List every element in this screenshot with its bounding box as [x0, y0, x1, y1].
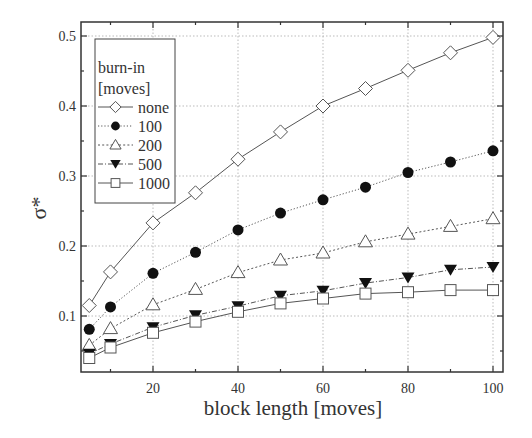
circle-marker — [148, 268, 159, 279]
diamond-marker — [359, 82, 373, 96]
y-tick-label: 0.4 — [59, 99, 77, 114]
circle-marker — [84, 324, 95, 335]
x-tick-label: 60 — [316, 381, 330, 396]
legend-label: 500 — [138, 156, 162, 173]
x-tick-label: 40 — [231, 381, 245, 396]
triangle-up-marker — [82, 338, 96, 350]
circle-marker — [403, 167, 414, 178]
circle-marker — [111, 122, 120, 131]
circle-marker — [488, 145, 499, 156]
square-marker — [318, 293, 329, 304]
circle-marker — [318, 194, 329, 205]
x-tick-label: 20 — [146, 381, 160, 396]
diamond-marker — [486, 30, 500, 44]
y-tick-label: 0.2 — [59, 239, 77, 254]
square-marker — [403, 287, 414, 298]
square-marker — [360, 288, 371, 299]
square-marker — [275, 298, 286, 309]
diamond-marker — [316, 99, 330, 113]
triangle-up-marker — [104, 322, 118, 334]
legend-title-line2: [moves] — [98, 80, 150, 97]
y-tick-label: 0.5 — [59, 29, 77, 44]
circle-marker — [190, 247, 201, 258]
chart: 204060801000.10.20.30.40.5 block length … — [0, 0, 532, 438]
circle-marker — [275, 208, 286, 219]
square-marker — [190, 316, 201, 327]
triangle-up-marker — [486, 212, 500, 224]
series-1000 — [84, 285, 499, 364]
x-tick-label: 100 — [483, 381, 504, 396]
triangle-up-marker — [231, 266, 245, 278]
square-marker — [148, 327, 159, 338]
triangle-up-marker — [146, 298, 160, 310]
diamond-marker — [444, 46, 458, 60]
triangle-up-marker — [189, 282, 203, 294]
square-marker — [105, 342, 116, 353]
legend: burn-in [moves] none1002005001000 — [95, 39, 175, 203]
square-marker — [111, 179, 120, 188]
circle-marker — [445, 157, 456, 168]
legend-label: none — [138, 99, 169, 116]
y-tick-label: 0.1 — [59, 309, 77, 324]
x-axis-label: block length [moves] — [204, 396, 382, 420]
series-line — [89, 267, 493, 354]
square-marker — [445, 285, 456, 296]
square-marker — [233, 306, 244, 317]
diamond-marker — [82, 299, 96, 313]
circle-marker — [233, 224, 244, 235]
legend-label: 100 — [138, 118, 162, 135]
y-axis-label: σ* — [26, 197, 51, 220]
legend-title-line1: burn-in — [98, 59, 145, 76]
legend-label: 1000 — [138, 175, 170, 192]
circle-marker — [360, 182, 371, 193]
circle-marker — [105, 301, 116, 312]
square-marker — [488, 285, 499, 296]
square-marker — [84, 353, 95, 364]
legend-label: 200 — [138, 137, 162, 154]
diamond-marker — [189, 186, 203, 200]
series-500 — [83, 262, 500, 360]
triangle-up-marker — [444, 219, 458, 231]
diamond-marker — [274, 125, 288, 139]
diamond-marker — [401, 63, 415, 77]
x-tick-label: 80 — [401, 381, 415, 396]
diamond-marker — [231, 152, 245, 166]
y-tick-label: 0.3 — [59, 169, 77, 184]
triangle-up-marker — [316, 246, 330, 258]
